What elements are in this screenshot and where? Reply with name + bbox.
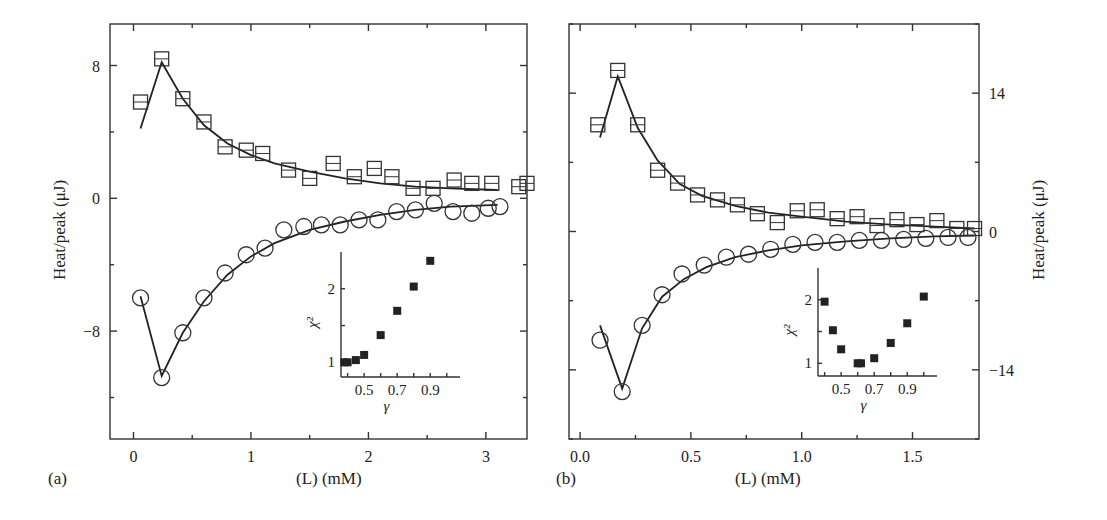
inset-marker xyxy=(829,326,837,334)
y-tick-label: 8 xyxy=(92,58,100,75)
inset-x-tick-label: 0.9 xyxy=(421,382,440,398)
y-axis-label-b: Heat/peak (μJ) xyxy=(1029,180,1048,280)
y-tick-label: −14 xyxy=(989,362,1014,379)
x-tick-label: 1 xyxy=(247,448,255,465)
x-tick-label: 1.0 xyxy=(792,448,812,465)
inset-x-tick-label: 0.5 xyxy=(832,381,851,397)
x-axis-label-b: (L) (mM) xyxy=(735,469,801,488)
inset-marker xyxy=(821,298,829,306)
inset-marker xyxy=(352,356,360,364)
circle-marker xyxy=(332,217,348,233)
fit-curve-squares xyxy=(600,76,975,228)
x-axis-label-a: (L) (mM) xyxy=(296,469,362,488)
fit-curve-circles xyxy=(141,205,498,376)
figure-canvas: 012380−80.50.70.912γχ² 0.00.51.01.5140−1… xyxy=(0,0,1107,520)
inset-y-tick-label: 2 xyxy=(328,281,336,297)
inset-marker xyxy=(920,293,928,301)
inset-y-tick-label: 1 xyxy=(805,355,813,371)
x-tick-label: 1.5 xyxy=(903,448,923,465)
circle-marker xyxy=(785,236,801,252)
inset-x-tick-label: 0.7 xyxy=(865,381,884,397)
fit-curve-squares xyxy=(141,62,498,190)
circle-marker xyxy=(370,212,386,228)
x-tick-label: 0.0 xyxy=(570,448,590,465)
inset-y-tick-label: 2 xyxy=(805,292,813,308)
x-tick-label: 0 xyxy=(129,448,137,465)
inset-marker xyxy=(360,351,368,359)
inset-marker xyxy=(887,339,895,347)
fit-curve-circles xyxy=(600,236,975,389)
panel-b: 0.00.51.01.5140−140.50.70.912γχ² xyxy=(569,24,1014,465)
circle-marker xyxy=(480,200,496,216)
inset-marker xyxy=(870,354,878,362)
circle-marker xyxy=(654,287,670,303)
circle-marker xyxy=(276,222,292,238)
circle-marker xyxy=(492,199,508,215)
inset-x-tick-label: 0.9 xyxy=(898,381,917,397)
inset-marker xyxy=(393,307,401,315)
inset-marker xyxy=(857,359,865,367)
x-tick-label: 0.5 xyxy=(681,448,701,465)
plot-frame xyxy=(110,24,527,439)
inset-marker xyxy=(344,358,352,366)
inset-marker xyxy=(410,283,418,291)
circle-marker xyxy=(873,232,889,248)
inset-y-label: χ² xyxy=(304,316,320,330)
panel-a: 012380−80.50.70.912γχ² xyxy=(83,24,534,465)
inset-x-label: γ xyxy=(384,398,391,414)
inset-y-label: χ² xyxy=(781,324,797,338)
inset-marker xyxy=(426,257,434,265)
circle-marker xyxy=(196,290,212,306)
inset-x-tick-label: 0.7 xyxy=(388,382,407,398)
circle-marker xyxy=(918,230,934,246)
circle-marker xyxy=(464,205,480,221)
inset-marker xyxy=(903,319,911,327)
figure: 012380−80.50.70.912γχ² 0.00.51.01.5140−1… xyxy=(0,0,1107,520)
y-tick-label: 0 xyxy=(989,224,997,241)
x-tick-label: 3 xyxy=(482,448,490,465)
circle-marker xyxy=(807,234,823,250)
y-tick-label: −8 xyxy=(83,323,100,340)
inset-marker xyxy=(377,331,385,339)
y-axis-label-a: Heat/peak (μJ) xyxy=(50,180,69,280)
y-tick-label: 0 xyxy=(92,190,100,207)
circle-marker xyxy=(940,229,956,245)
inset-x-label: γ xyxy=(861,397,868,413)
panel-a-label: (a) xyxy=(48,469,67,488)
panel-b-label: (b) xyxy=(556,469,576,488)
circle-marker xyxy=(718,249,734,265)
inset-x-tick-label: 0.5 xyxy=(355,382,374,398)
inset-marker xyxy=(837,345,845,353)
inset-y-tick-label: 1 xyxy=(328,354,336,370)
circle-marker xyxy=(896,231,912,247)
x-tick-label: 2 xyxy=(364,448,372,465)
y-tick-label: 14 xyxy=(989,85,1005,102)
